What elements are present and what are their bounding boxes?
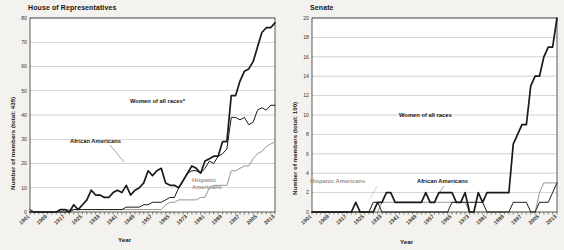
plot-area-senate: 0246810121416182019011909191719251933194…: [282, 0, 564, 250]
svg-text:70: 70: [21, 39, 27, 45]
svg-text:10: 10: [21, 185, 27, 191]
svg-text:80: 80: [21, 15, 27, 21]
svg-text:1925: 1925: [70, 213, 83, 225]
svg-text:2013: 2013: [545, 213, 558, 225]
svg-text:1997: 1997: [228, 213, 241, 225]
svg-text:Women of all races*: Women of all races*: [130, 98, 186, 104]
svg-text:1965: 1965: [440, 213, 453, 225]
svg-text:1949: 1949: [405, 213, 418, 225]
svg-text:6: 6: [306, 151, 309, 157]
svg-text:1941: 1941: [387, 213, 400, 225]
svg-text:Hispanic: Hispanic: [192, 177, 217, 183]
svg-text:1901: 1901: [300, 213, 313, 225]
svg-text:12: 12: [303, 92, 309, 98]
svg-text:1973: 1973: [175, 213, 188, 225]
svg-text:1957: 1957: [422, 213, 435, 225]
chart-panel-senate: Senate Number of members (total: 100) Ye…: [282, 0, 564, 250]
svg-text:1981: 1981: [475, 213, 488, 225]
svg-text:1933: 1933: [88, 213, 101, 225]
svg-text:8: 8: [306, 131, 309, 137]
svg-text:African Americans: African Americans: [417, 178, 468, 184]
svg-text:1933: 1933: [370, 213, 383, 225]
svg-text:1981: 1981: [193, 213, 206, 225]
svg-text:50: 50: [21, 88, 27, 94]
plot-area-house: 0102030405060708019011909191719251933194…: [0, 0, 282, 250]
svg-text:60: 60: [21, 63, 27, 69]
svg-text:Americans: Americans: [192, 184, 222, 190]
chart-panel-house: House of Representatives Number of membe…: [0, 0, 282, 250]
svg-text:Hispanic Americans: Hispanic Americans: [310, 178, 365, 184]
svg-text:20: 20: [303, 15, 309, 21]
svg-text:African Americans: African Americans: [70, 138, 121, 144]
svg-text:2005: 2005: [245, 213, 258, 225]
svg-text:14: 14: [303, 73, 309, 79]
svg-text:1917: 1917: [335, 213, 348, 225]
svg-text:1965: 1965: [158, 213, 171, 225]
svg-text:2: 2: [306, 189, 309, 195]
svg-text:16: 16: [303, 54, 309, 60]
svg-text:4: 4: [306, 170, 309, 176]
svg-text:1909: 1909: [35, 213, 48, 225]
svg-text:1989: 1989: [210, 213, 223, 225]
svg-text:1909: 1909: [317, 213, 330, 225]
charts-container: House of Representatives Number of membe…: [0, 0, 564, 250]
svg-text:2005: 2005: [527, 213, 540, 225]
svg-text:1917: 1917: [53, 213, 66, 225]
svg-text:1957: 1957: [140, 213, 153, 225]
svg-text:1901: 1901: [18, 213, 31, 225]
svg-text:30: 30: [21, 136, 27, 142]
svg-text:1949: 1949: [123, 213, 136, 225]
svg-text:10: 10: [303, 112, 309, 118]
svg-text:20: 20: [21, 160, 27, 166]
svg-text:40: 40: [21, 112, 27, 118]
svg-text:Women of all races: Women of all races: [399, 112, 452, 118]
svg-text:2013: 2013: [263, 213, 276, 225]
svg-text:1925: 1925: [352, 213, 365, 225]
svg-text:1973: 1973: [457, 213, 470, 225]
svg-text:1941: 1941: [105, 213, 118, 225]
svg-text:18: 18: [303, 34, 309, 40]
svg-text:1997: 1997: [510, 213, 523, 225]
svg-text:1989: 1989: [492, 213, 505, 225]
